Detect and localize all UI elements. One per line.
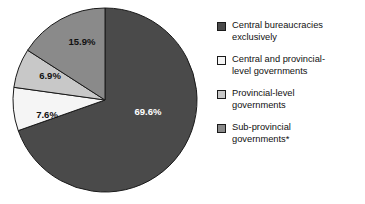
legend-item[interactable]: Provincial-level governments [217,88,365,111]
legend-item[interactable]: Central bureaucracies exclusively [217,20,365,43]
pie-chart-figure: 69.6%7.6%6.9%15.9% Central bureaucracies… [0,0,365,204]
legend-item-label: Sub-provincial governments* [232,122,291,145]
legend-item[interactable]: Central and provincial- level government… [217,54,365,77]
chart-legend: Central bureaucracies exclusively Centra… [217,20,365,156]
pie-slice-label: 15.9% [69,36,96,47]
pie-slice-label: 69.6% [135,106,162,117]
legend-swatch-central-and-provincial [217,56,226,65]
pie-svg: 69.6%7.6%6.9%15.9% [0,0,210,204]
legend-item-label: Central and provincial- level government… [232,54,325,77]
legend-swatch-central-bureaucracies [217,22,226,31]
legend-item-label: Provincial-level governments [232,88,295,111]
legend-swatch-sub-provincial [217,124,226,133]
pie-plot-area: 69.6%7.6%6.9%15.9% [0,0,210,204]
legend-item[interactable]: Sub-provincial governments* [217,122,365,145]
legend-item-label: Central bureaucracies exclusively [232,20,323,43]
pie-slice-label: 6.9% [39,70,61,81]
legend-swatch-provincial-level [217,90,226,99]
pie-slice-group [13,8,197,192]
pie-slice-label: 7.6% [36,109,58,120]
